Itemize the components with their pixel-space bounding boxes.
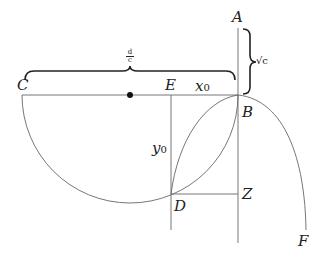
diagram-svg [0,0,327,259]
label-B: B [242,105,253,120]
label-x0: x0 [195,79,210,94]
curve-DB [171,95,238,194]
label-sqrt-c: √c [256,56,268,66]
label-E: E [165,78,176,93]
x0-sub: 0 [203,82,209,93]
center-dot [127,92,133,98]
label-A: A [232,10,243,25]
label-D: D [174,199,186,214]
brace-horizontal [25,66,235,80]
label-C: C [17,78,28,93]
brace-vertical [243,29,256,94]
label-F: F [298,234,308,249]
label-d-over-c: d c [126,49,134,64]
label-y0: y0 [152,141,167,156]
diagram-canvas: A B C E D Z F x0 y0 d c √c [0,0,327,259]
frac-den: c [126,57,134,64]
label-Z: Z [242,187,252,202]
semicircle-CB [22,95,238,203]
y0-sub: 0 [160,144,166,155]
